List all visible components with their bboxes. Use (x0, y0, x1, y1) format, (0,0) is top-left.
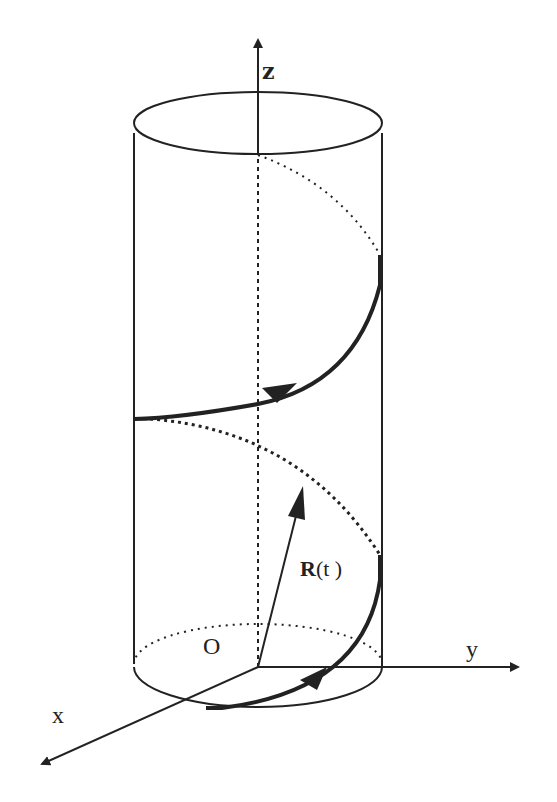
x-axis-label: x (52, 702, 64, 729)
origin-label: O (203, 633, 220, 660)
x-axis (42, 667, 258, 764)
helix-back-lower-dotted (150, 419, 380, 555)
vector-R-argument: (t ) (316, 556, 342, 581)
vector-R-label: R(t ) (300, 556, 342, 582)
helix-back-upper-dotted (258, 155, 380, 255)
z-axis-label: z (262, 58, 275, 84)
y-axis-label: y (466, 636, 478, 663)
vector-R-symbol: R (300, 556, 316, 581)
position-vector-arrow-head (288, 486, 305, 520)
position-vector-R (258, 500, 300, 667)
helix-diagram (0, 0, 557, 802)
helix-front-lower (206, 555, 380, 708)
